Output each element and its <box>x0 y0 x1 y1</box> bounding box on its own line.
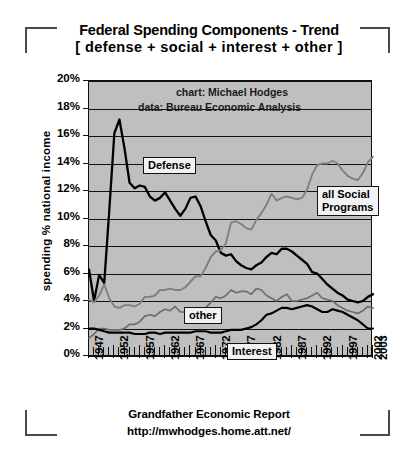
x-axis-tick-mark <box>291 345 292 358</box>
y-axis-tick-label: 18% <box>34 100 80 112</box>
series-line-all-social-programs <box>89 157 373 308</box>
x-axis-tick-mark <box>164 345 165 358</box>
x-axis-tick-label: 1947 <box>93 336 105 360</box>
x-axis-tick-mark <box>367 345 368 358</box>
y-axis-tick-mark <box>83 108 88 109</box>
x-axis-tick-mark <box>113 345 114 358</box>
callout-all-social-programs: all Social Programs <box>317 186 379 216</box>
y-axis-tick-mark <box>83 135 88 136</box>
x-axis-tick-mark <box>88 345 89 358</box>
x-axis-tick-label: 1992 <box>321 336 333 360</box>
x-axis-tick-label: 1997 <box>347 336 359 360</box>
x-axis-tick-mark <box>316 345 317 358</box>
x-axis-tick-mark <box>286 347 287 356</box>
y-axis-tick-label: 14% <box>34 155 80 167</box>
x-axis-tick-mark <box>108 347 109 356</box>
x-axis-tick-mark <box>159 347 160 356</box>
x-axis-tick-mark <box>362 347 363 356</box>
y-axis-tick-label: 16% <box>34 127 80 139</box>
chart-page: Federal Spending Components - Trend [ de… <box>0 0 413 459</box>
callout-defense: Defense <box>143 157 196 174</box>
y-axis-tick-label: 4% <box>34 292 80 304</box>
footer-report-name: Grandfather Economic Report <box>44 408 374 420</box>
y-axis-tick-mark <box>83 80 88 81</box>
y-axis-tick-mark <box>83 300 88 301</box>
y-axis-tick-mark <box>83 163 88 164</box>
callout-other: other <box>184 307 222 324</box>
x-axis-tick-mark <box>139 345 140 358</box>
y-axis-tick-label: 10% <box>34 210 80 222</box>
y-axis-tick-label: 12% <box>34 182 80 194</box>
y-axis-tick-label: 6% <box>34 265 80 277</box>
callout-social-line-2: Programs <box>322 201 374 214</box>
x-axis-tick-mark <box>215 345 216 358</box>
series-lines <box>89 81 373 356</box>
chart-title: Federal Spending Components - Trend [ de… <box>44 22 374 56</box>
chart-title-line-2: [ defense + social + interest + other ] <box>44 39 374 56</box>
x-axis-tick-mark <box>210 347 211 356</box>
plot-area <box>88 80 372 355</box>
x-axis-tick-label: 1962 <box>169 336 181 360</box>
callout-social-line-1: all Social <box>322 188 374 201</box>
credit-data-source: data: Bureau Economic Analysis <box>138 101 301 113</box>
y-axis-tick-mark <box>83 245 88 246</box>
y-axis-tick-label: 2% <box>34 320 80 332</box>
x-axis-tick-mark <box>184 347 185 356</box>
callout-interest: Interest <box>227 343 277 360</box>
y-axis-tick-mark <box>83 273 88 274</box>
x-axis-tick-mark <box>342 345 343 358</box>
x-axis-tick-label: 1952 <box>118 336 130 360</box>
x-axis-tick-label: 1987 <box>296 336 308 360</box>
chart-title-line-1: Federal Spending Components - Trend <box>44 22 374 39</box>
y-axis-tick-mark <box>83 328 88 329</box>
credit-chart-author: chart: Michael Hodges <box>176 86 288 98</box>
footer-url: http://mwhodges.home.att.net/ <box>44 425 374 437</box>
x-axis-tick-mark <box>337 347 338 356</box>
x-axis-tick-label: 1957 <box>144 336 156 360</box>
y-axis-tick-label: 20% <box>34 72 80 84</box>
y-axis-tick-mark <box>83 190 88 191</box>
y-axis-tick-mark <box>83 218 88 219</box>
x-axis-tick-label: 1967 <box>194 336 206 360</box>
x-axis-tick-mark <box>134 347 135 356</box>
x-axis-tick-mark <box>311 347 312 356</box>
x-axis-tick-mark <box>189 345 190 358</box>
x-axis-tick-label: 2003 <box>377 336 389 360</box>
x-axis-tick-labels: 1947195219571962196719721977198219871992… <box>0 358 413 410</box>
y-axis-tick-label: 8% <box>34 237 80 249</box>
series-line-interest <box>89 305 373 334</box>
